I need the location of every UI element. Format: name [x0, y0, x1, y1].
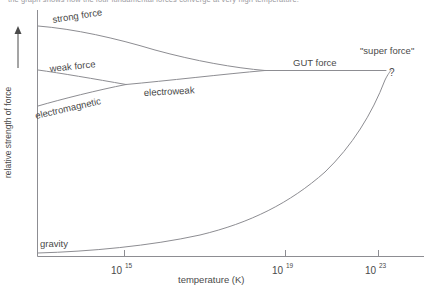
x-axis-title: temperature (K) — [178, 274, 245, 285]
label-gravity: gravity — [40, 238, 68, 249]
label-gut-force: GUT force — [293, 57, 337, 68]
curve-electroweak — [126, 71, 265, 85]
x-tick-label-2-exp: 19 — [286, 262, 294, 269]
label-super-force: "super force" — [360, 45, 414, 56]
x-tick-label-1-base: 10 — [111, 265, 123, 276]
label-electromagnetic: electromagnetic — [34, 95, 102, 121]
x-tick-label-2-base: 10 — [272, 265, 284, 276]
x-tick-label-2: 10 19 — [272, 262, 294, 276]
label-question-mark: ? — [389, 67, 395, 78]
x-tick-label-3: 10 23 — [365, 262, 387, 276]
y-axis-title: relative strength of force — [3, 87, 13, 178]
label-weak-force: weak force — [48, 58, 96, 74]
y-axis-arrow-icon — [15, 26, 22, 68]
x-tick-label-3-exp: 23 — [379, 262, 387, 269]
chart-svg: strong force weak force electromagnetic … — [0, 0, 427, 285]
x-tick-label-1: 10 15 — [111, 262, 133, 276]
label-electroweak: electroweak — [144, 84, 195, 98]
x-tick-label-1-exp: 15 — [125, 262, 133, 269]
label-strong-force: strong force — [52, 6, 103, 25]
force-unification-figure: the graph shows how the four fundamental… — [0, 0, 427, 285]
x-tick-label-3-base: 10 — [365, 265, 377, 276]
